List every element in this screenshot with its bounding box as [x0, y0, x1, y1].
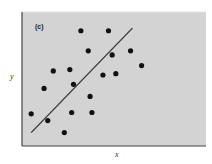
- data-point: [110, 52, 115, 57]
- data-point: [45, 118, 50, 123]
- data-point: [71, 82, 76, 87]
- scatter-chart: (c) y x: [0, 0, 212, 164]
- data-point: [41, 86, 46, 91]
- data-point: [139, 63, 144, 68]
- data-point: [100, 72, 105, 77]
- data-point: [78, 28, 83, 33]
- data-point: [86, 48, 91, 53]
- data-point: [89, 110, 94, 115]
- data-point: [67, 67, 72, 72]
- panel-label: (c): [35, 23, 44, 31]
- y-axis-label: y: [9, 72, 14, 81]
- data-point: [29, 111, 34, 116]
- data-point: [62, 130, 67, 135]
- data-point: [128, 48, 133, 53]
- data-point: [113, 71, 118, 76]
- data-point: [87, 94, 92, 99]
- x-axis-label: x: [114, 150, 119, 159]
- data-point: [106, 28, 111, 33]
- data-point: [69, 110, 74, 115]
- plot-area: [22, 12, 206, 146]
- data-point: [51, 68, 56, 73]
